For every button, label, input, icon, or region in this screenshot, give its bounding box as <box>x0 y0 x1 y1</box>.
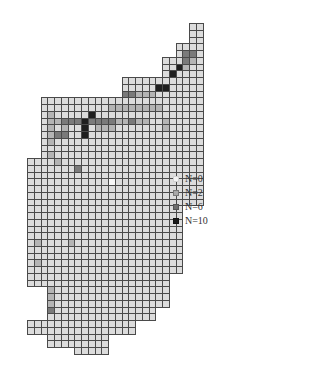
legend-swatch-n6 <box>173 204 179 210</box>
legend-item-n2: N=2 <box>173 188 218 200</box>
legend-label-n10: N=10 <box>185 215 208 226</box>
grid-cell <box>128 327 136 335</box>
legend-item-n0: N=0 <box>173 174 218 186</box>
grid-cell <box>176 266 184 274</box>
legend-swatch-n2 <box>173 190 179 196</box>
grid-cell <box>162 300 170 308</box>
grid-cell <box>101 347 109 355</box>
legend-item-n10: N=10 <box>173 216 218 228</box>
legend-swatch-n10 <box>173 218 179 224</box>
legend-label-n6: N=6 <box>185 201 203 212</box>
legend-label-n2: N=2 <box>185 187 203 198</box>
legend-swatch-n0 <box>173 176 179 182</box>
legend-label-n0: N=0 <box>185 173 203 184</box>
grid-cell <box>149 313 157 321</box>
legend-item-n6: N=6 <box>173 202 218 214</box>
